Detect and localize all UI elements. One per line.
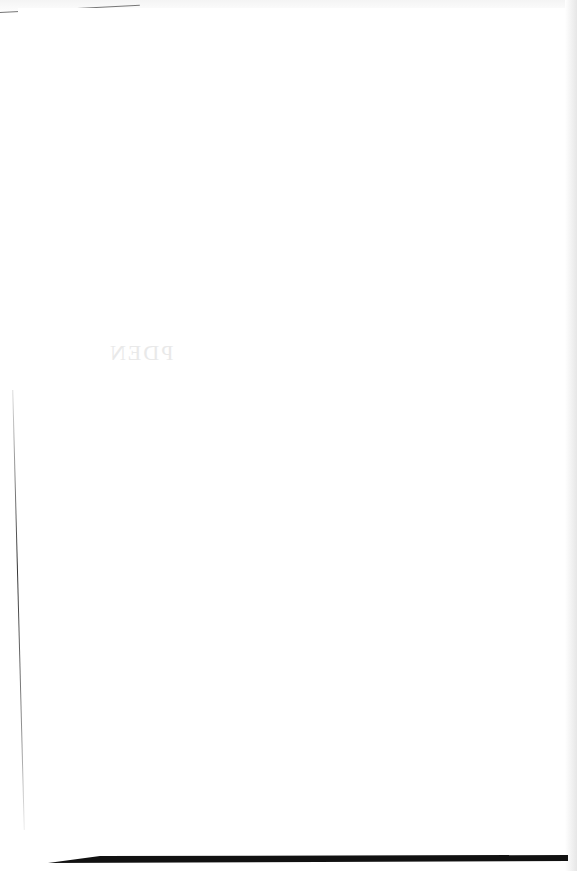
blank-page <box>18 8 570 864</box>
page-right-shadow <box>565 0 577 871</box>
bleed-through-text: PDEN <box>108 340 173 366</box>
